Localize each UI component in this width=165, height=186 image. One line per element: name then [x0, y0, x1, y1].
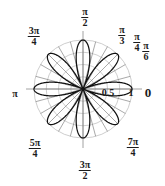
angle-pi: π [12, 89, 17, 99]
angle-3pi-2-fraction: 3π2 [79, 160, 91, 181]
angle-7pi-4-denominator: 4 [127, 148, 139, 158]
angle-pi-6-denominator: 6 [142, 52, 149, 62]
angle-7pi-4: 7π4 [127, 137, 139, 158]
angle-5pi-4: 5π4 [29, 138, 41, 159]
angle-3pi-2: 3π2 [79, 160, 91, 181]
angle-3pi-4-denominator: 4 [28, 37, 40, 47]
angle-pi-2-denominator: 2 [81, 18, 88, 28]
angle-pi-6: π6 [142, 41, 149, 62]
radial-tick-0-5: 0.5 [102, 88, 115, 98]
angle-pi-2-fraction: π2 [81, 7, 88, 28]
angle-pi-3: π3 [118, 25, 125, 46]
angle-pi-2: π2 [81, 7, 88, 28]
angle-pi-6-fraction: π6 [142, 41, 149, 62]
angle-pi-4: π4 [133, 32, 140, 53]
angle-pi-4-denominator: 4 [133, 43, 140, 53]
angle-3pi-2-denominator: 2 [79, 171, 91, 181]
angle-pi-text: π [12, 89, 17, 99]
angle-pi-3-denominator: 3 [118, 36, 125, 46]
angle-0: 0 [145, 86, 152, 99]
radial-tick-1: 1 [129, 88, 134, 98]
polar-plot-figure: 0π6π4π3π23π4π5π43π27π4 0.51 [0, 0, 165, 186]
angle-0-text: 0 [145, 86, 152, 99]
angle-7pi-4-fraction: 7π4 [127, 137, 139, 158]
angle-5pi-4-fraction: 5π4 [29, 138, 41, 159]
angle-pi-3-fraction: π3 [118, 25, 125, 46]
angle-pi-4-fraction: π4 [133, 32, 140, 53]
angle-3pi-4: 3π4 [28, 26, 40, 47]
angle-3pi-4-fraction: 3π4 [28, 26, 40, 47]
angle-5pi-4-denominator: 4 [29, 149, 41, 159]
